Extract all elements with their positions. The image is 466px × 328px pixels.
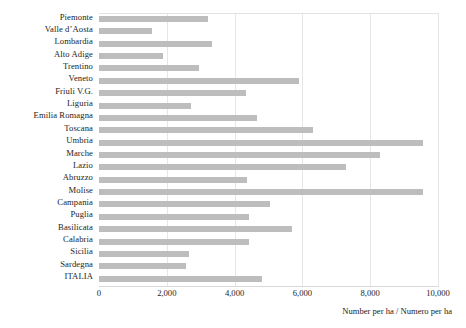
category-label: Veneto [0, 74, 93, 83]
x-tick-label: 8,000 [340, 288, 400, 298]
bar-row[interactable] [99, 138, 438, 150]
category-label: Molise [0, 186, 93, 195]
bar[interactable] [99, 16, 208, 22]
bar[interactable] [99, 65, 199, 71]
category-label: Puglia [0, 210, 93, 219]
bar[interactable] [99, 226, 292, 232]
bar[interactable] [99, 177, 247, 183]
category-label: Emilia Romagna [0, 111, 93, 120]
bar-row[interactable] [99, 14, 438, 26]
bar[interactable] [99, 164, 346, 170]
bar-row[interactable] [99, 237, 438, 249]
bar[interactable] [99, 41, 212, 47]
x-tick-label: 2,000 [137, 288, 197, 298]
bar-row[interactable] [99, 150, 438, 162]
bar[interactable] [99, 140, 423, 146]
bar-row[interactable] [99, 249, 438, 261]
bar-row[interactable] [99, 26, 438, 38]
gridline [438, 14, 439, 286]
category-label: Toscana [0, 124, 93, 133]
bar-row[interactable] [99, 101, 438, 113]
bar[interactable] [99, 251, 189, 257]
bar-row[interactable] [99, 125, 438, 137]
bar[interactable] [99, 276, 262, 282]
category-label: Lazio [0, 161, 93, 170]
category-label: Lombardia [0, 37, 93, 46]
bar-row[interactable] [99, 187, 438, 199]
category-label: Alto Adige [0, 50, 93, 59]
category-axis-labels: PiemonteValle d’AostaLombardiaAlto Adige… [0, 13, 93, 285]
bar-row[interactable] [99, 212, 438, 224]
bar[interactable] [99, 201, 270, 207]
category-label: Sardegna [0, 260, 93, 269]
bar[interactable] [99, 239, 249, 245]
bar-row[interactable] [99, 162, 438, 174]
category-label: Abruzzo [0, 173, 93, 182]
bar-chart-figure: ··· PiemonteValle d’AostaLombardiaAlto A… [0, 0, 466, 328]
plot-area [99, 13, 439, 287]
bar-row[interactable] [99, 224, 438, 236]
bar[interactable] [99, 90, 246, 96]
category-label: Basilicata [0, 223, 93, 232]
x-tick-label: 6,000 [272, 288, 332, 298]
x-tick-label: 10,000 [408, 288, 466, 298]
bar[interactable] [99, 263, 186, 269]
category-label: Trentino [0, 62, 93, 71]
bar[interactable] [99, 78, 299, 84]
bar-row[interactable] [99, 88, 438, 100]
page-corner-mark: ··· [453, 2, 460, 7]
x-tick-label: 4,000 [205, 288, 265, 298]
bar[interactable] [99, 152, 380, 158]
category-label: Piemonte [0, 13, 93, 22]
bar-row[interactable] [99, 63, 438, 75]
x-axis-tick-labels: 02,0004,0006,0008,00010,000 [99, 288, 438, 302]
category-label: Sicilia [0, 247, 93, 256]
x-axis-title: Number per ha / Numero per ha [0, 306, 452, 316]
category-label: ITALIA [0, 272, 93, 281]
bar[interactable] [99, 53, 163, 59]
bar[interactable] [99, 127, 313, 133]
category-label: Marche [0, 149, 93, 158]
bar-row[interactable] [99, 39, 438, 51]
bar-row[interactable] [99, 76, 438, 88]
bar[interactable] [99, 28, 152, 34]
x-tick-label: 0 [69, 288, 129, 298]
bar[interactable] [99, 103, 191, 109]
bar-row[interactable] [99, 175, 438, 187]
bar-row[interactable] [99, 199, 438, 211]
category-label: Friuli V.G. [0, 87, 93, 96]
bar-row[interactable] [99, 274, 438, 286]
category-label: Liguria [0, 99, 93, 108]
bar[interactable] [99, 214, 249, 220]
bar-row[interactable] [99, 51, 438, 63]
bar-row[interactable] [99, 261, 438, 273]
category-label: Calabria [0, 235, 93, 244]
category-label: Umbria [0, 136, 93, 145]
bar[interactable] [99, 115, 257, 121]
bar[interactable] [99, 189, 423, 195]
category-label: Campania [0, 198, 93, 207]
bar-row[interactable] [99, 113, 438, 125]
category-label: Valle d’Aosta [0, 25, 93, 34]
